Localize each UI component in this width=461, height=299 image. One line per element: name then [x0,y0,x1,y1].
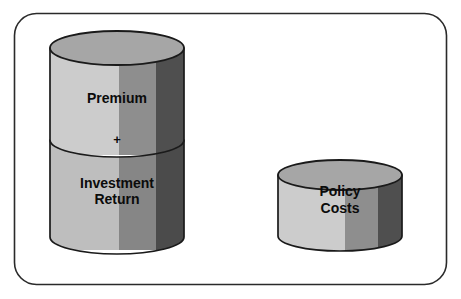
diagram-canvas: Premium + Investment Return Policy Costs [0,0,461,299]
investment-return-label-line1: Investment [80,175,154,191]
policy-costs-label-line1: Policy [319,183,360,199]
diagram-svg: Premium + Investment Return Policy Costs [0,0,461,299]
premium-investment-stack: Premium + Investment Return [48,30,186,254]
policy-costs-label-line2: Costs [321,200,360,216]
policy-costs-cylinder: Policy Costs [276,158,406,253]
cylinder-top-face [50,31,184,65]
plus-operator: + [113,132,121,147]
premium-label: Premium [87,90,147,106]
investment-return-label-line2: Return [94,191,139,207]
